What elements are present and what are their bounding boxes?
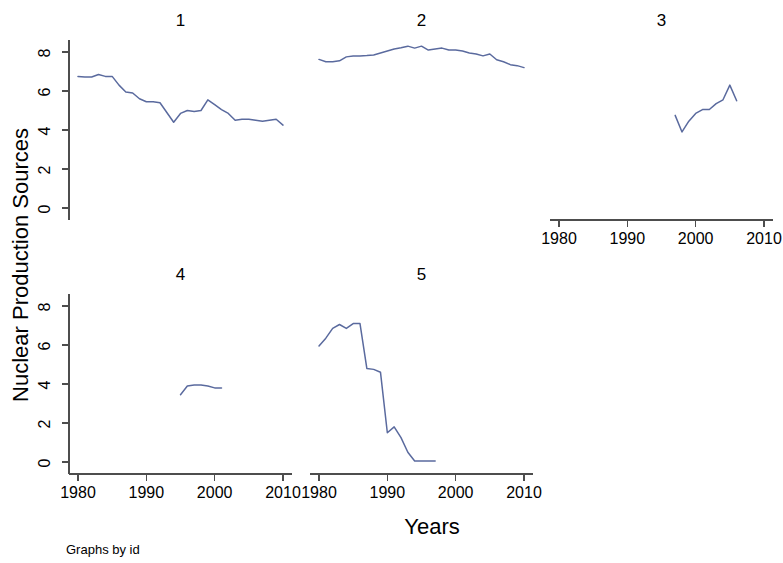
x-tick-label: 2010 — [265, 484, 301, 501]
y-tick-label: 6 — [36, 341, 53, 350]
x-tick-label: 2010 — [506, 484, 542, 501]
x-tick-label: 1980 — [60, 484, 96, 501]
y-tick-label: 8 — [36, 48, 53, 57]
y-tick-label: 2 — [36, 165, 53, 174]
x-tick-label: 1990 — [610, 230, 646, 247]
figure-background — [0, 0, 783, 563]
figure-note: Graphs by id — [66, 542, 140, 557]
x-tick-label: 1980 — [541, 230, 577, 247]
y-tick-label: 4 — [36, 380, 53, 389]
small-multiples-figure: 1024682319801990200020104024681980199020… — [0, 0, 783, 563]
panel-title: 4 — [176, 265, 185, 284]
panel-title: 1 — [176, 11, 185, 30]
y-tick-label: 0 — [36, 204, 53, 213]
x-tick-label: 2000 — [438, 484, 474, 501]
x-tick-label: 1990 — [129, 484, 165, 501]
panel-title: 5 — [417, 265, 426, 284]
chart-canvas: 1024682319801990200020104024681980199020… — [0, 0, 783, 563]
x-tick-label: 2000 — [678, 230, 714, 247]
y-tick-label: 4 — [36, 126, 53, 135]
y-axis-title: Nuclear Production Sources — [8, 128, 33, 402]
y-tick-label: 8 — [36, 302, 53, 311]
y-tick-label: 2 — [36, 419, 53, 428]
y-tick-label: 6 — [36, 87, 53, 96]
x-tick-label: 1980 — [301, 484, 337, 501]
panel-title: 3 — [657, 11, 666, 30]
x-tick-label: 2010 — [746, 230, 782, 247]
x-tick-label: 1990 — [370, 484, 406, 501]
panel-title: 2 — [417, 11, 426, 30]
y-tick-label: 0 — [36, 458, 53, 467]
x-tick-label: 2000 — [197, 484, 233, 501]
x-axis-title: Years — [404, 514, 459, 539]
